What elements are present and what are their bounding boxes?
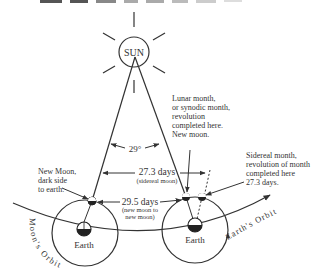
sun-label: SUN <box>124 47 144 58</box>
note-lunar-line: New moon. <box>172 130 209 139</box>
moon-orbit-label: Moon's Orbit <box>28 218 64 270</box>
note-new-moon-line: to earth. <box>38 185 64 194</box>
svg-text:revolution of month: revolution of month <box>246 160 310 169</box>
lunar-month-diagram: SUN 29° 27.3 days (sidereal moon) 29.5 d… <box>0 0 321 272</box>
earth-right <box>188 218 202 232</box>
svg-text:New Moon,: New Moon, <box>38 167 76 176</box>
svg-text:or synodic month,: or synodic month, <box>172 103 230 112</box>
diagram-canvas: SUN 29° 27.3 days (sidereal moon) 29.5 d… <box>0 0 321 272</box>
earth-left <box>77 222 91 236</box>
angle-label: 29° <box>129 144 142 154</box>
synodic-span-sub2: new moon) <box>125 213 154 221</box>
svg-text:27.3 days.: 27.3 days. <box>246 178 279 187</box>
earth-left-label: Earth <box>74 240 94 250</box>
sidereal-moon-right <box>198 193 206 201</box>
note-sidereal-line: 27.3 days. <box>246 178 279 187</box>
note-new-moon: New Moon, dark side to earth. <box>38 167 76 194</box>
svg-text:completed here.: completed here. <box>172 121 223 130</box>
new-moon-left <box>88 197 96 205</box>
note-sidereal-line: Sidereal month, <box>246 151 297 160</box>
sidereal-span-sub: (sidereal moon) <box>137 177 178 185</box>
earth-system-left <box>52 197 118 266</box>
note-lunar-month: Lunar month, or synodic month, revolutio… <box>172 94 230 139</box>
new-moon-right <box>182 193 190 201</box>
earth-orbit-label: Earth's Orbit <box>224 206 279 242</box>
sidereal-span-label: 27.3 days <box>139 167 176 177</box>
svg-text:to earth.: to earth. <box>38 185 64 194</box>
title-fragment <box>40 0 242 3</box>
svg-text:completed here: completed here <box>246 169 296 178</box>
svg-text:dark side: dark side <box>38 176 68 185</box>
note-lunar-line: Lunar month, <box>172 94 216 103</box>
earth-right-label: Earth <box>185 235 205 245</box>
note-new-moon-line: New Moon, <box>38 167 76 176</box>
note-sidereal-month: Sidereal month, revolution of month comp… <box>246 151 310 187</box>
svg-text:New moon.: New moon. <box>172 130 209 139</box>
svg-text:Lunar month,: Lunar month, <box>172 94 216 103</box>
svg-text:Sidereal month,: Sidereal month, <box>246 151 297 160</box>
note-lunar-line: or synodic month, <box>172 103 230 112</box>
note-sidereal-line: completed here <box>246 169 296 178</box>
svg-text:revolution: revolution <box>172 112 205 121</box>
note-lunar-line: completed here. <box>172 121 223 130</box>
note-lunar-line: revolution <box>172 112 205 121</box>
note-sidereal-line: revolution of month <box>246 160 310 169</box>
note-new-moon-line: dark side <box>38 176 68 185</box>
